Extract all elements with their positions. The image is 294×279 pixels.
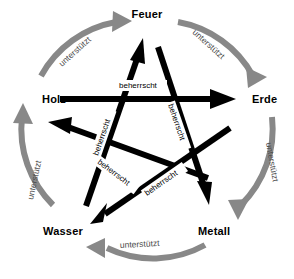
node-label-feuer: Feuer bbox=[132, 8, 163, 20]
node-label-metall: Metall bbox=[198, 225, 230, 237]
controlling-label-group-metall-holz: beherrscht bbox=[94, 155, 141, 194]
controlling-label-holz-erde: beherrscht bbox=[119, 81, 158, 90]
controlling-edge-holz-erde bbox=[60, 89, 236, 109]
controlling-label-group-erde-wasser: beherrscht bbox=[141, 162, 188, 200]
generating-arrowhead-feuer-erde bbox=[246, 67, 267, 88]
generating-label-metall-wasser: unterstützt bbox=[120, 238, 161, 250]
generating-edge-holz-feuer: unterstützt bbox=[41, 11, 132, 76]
controlling-arrowhead-holz-erde bbox=[210, 89, 236, 109]
generating-edge-erde-metall: unterstützt bbox=[228, 117, 281, 220]
controlling-arrowhead-feuer-metall bbox=[197, 181, 212, 205]
controlling-edge-wasser-feuer bbox=[86, 38, 145, 206]
node-label-holz: Holz bbox=[42, 93, 66, 105]
generating-edge-metall-wasser: unterstützt bbox=[86, 238, 205, 259]
diagram-canvas: unterstützt unterstützt unterstützt unte… bbox=[0, 0, 294, 279]
wuxing-five-elements-diagram: unterstützt unterstützt unterstützt unte… bbox=[0, 0, 294, 279]
generating-arrowhead-metall-wasser bbox=[86, 238, 105, 258]
controlling-arrowhead-metall-holz bbox=[48, 117, 72, 134]
controlling-arrowhead-wasser-feuer bbox=[130, 38, 145, 64]
controlling-label-metall-holz: beherrscht bbox=[96, 157, 132, 187]
controlling-arrowhead-erde-wasser bbox=[90, 203, 107, 224]
controlling-line-erde-wasser bbox=[105, 128, 230, 214]
generating-edge-wasser-holz: unterstützt bbox=[13, 103, 53, 205]
generating-edge-feuer-erde: unterstützt bbox=[178, 22, 267, 88]
generating-arrowhead-holz-feuer bbox=[112, 11, 132, 32]
node-label-wasser: Wasser bbox=[43, 225, 83, 237]
node-label-erde: Erde bbox=[252, 93, 277, 105]
controlling-label-group-holz-erde: beherrscht bbox=[117, 80, 167, 91]
generating-arrowhead-wasser-holz bbox=[13, 103, 33, 124]
generating-arrowhead-erde-metall bbox=[228, 199, 249, 220]
